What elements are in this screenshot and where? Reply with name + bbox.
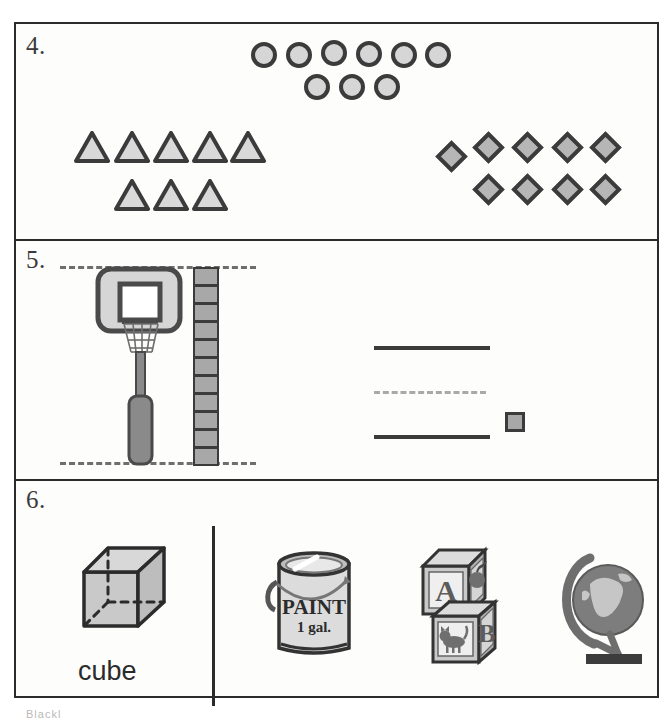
circle-shape [321, 40, 347, 66]
tower-cube [193, 285, 219, 304]
circle-shape [286, 42, 312, 68]
tower-cube [193, 393, 219, 412]
question-number-4: 4. [26, 32, 46, 60]
cube-diagram [78, 542, 174, 642]
circle-shape [374, 74, 400, 100]
section-divider [16, 239, 657, 241]
tower-cube [193, 357, 219, 376]
diamond-shape [472, 131, 505, 164]
circle-shape [251, 42, 277, 68]
vertical-divider [212, 526, 215, 706]
circle-shape [425, 42, 451, 68]
comparison-line-bottom [374, 435, 490, 439]
diamond-shape [472, 173, 505, 206]
comparison-line-top [374, 346, 490, 350]
question-number-5: 5. [26, 246, 46, 274]
paint-can-icon: PAINT 1 gal. [261, 544, 366, 668]
comparison-line-middle [374, 391, 486, 394]
tower-cube [193, 267, 219, 286]
diamond-shape [589, 173, 622, 206]
diamond-shape [435, 140, 468, 173]
tower-cube [193, 303, 219, 322]
worksheet-page: 4. [14, 22, 659, 698]
diamond-shape [551, 173, 584, 206]
circle-shape [304, 74, 330, 100]
section-divider [16, 479, 657, 481]
tower-cube [193, 429, 219, 448]
circle-shape [339, 74, 365, 100]
unit-cube [505, 412, 525, 432]
tower-cube [193, 321, 219, 340]
diamond-shape [511, 131, 544, 164]
circle-shape [391, 42, 417, 68]
circle-shape [356, 41, 382, 67]
globe-icon [552, 544, 662, 673]
tower-cube [193, 411, 219, 430]
diamond-shape [551, 131, 584, 164]
tower-cube [193, 339, 219, 358]
paint-can-line2-text: 1 gal. [297, 619, 331, 635]
basketball-hoop-icon [84, 266, 194, 470]
footer-text: Blackl [26, 708, 61, 720]
paint-can-line1-text: PAINT [282, 595, 346, 619]
cube-label: cube [78, 656, 137, 687]
alphabet-blocks-icon: A [413, 544, 533, 673]
block-letter-b: B [478, 619, 495, 648]
tower-cube [193, 375, 219, 394]
diamond-shape [511, 173, 544, 206]
tower-cube [193, 447, 219, 466]
question-number-6: 6. [26, 486, 46, 514]
diamond-shape [589, 131, 622, 164]
